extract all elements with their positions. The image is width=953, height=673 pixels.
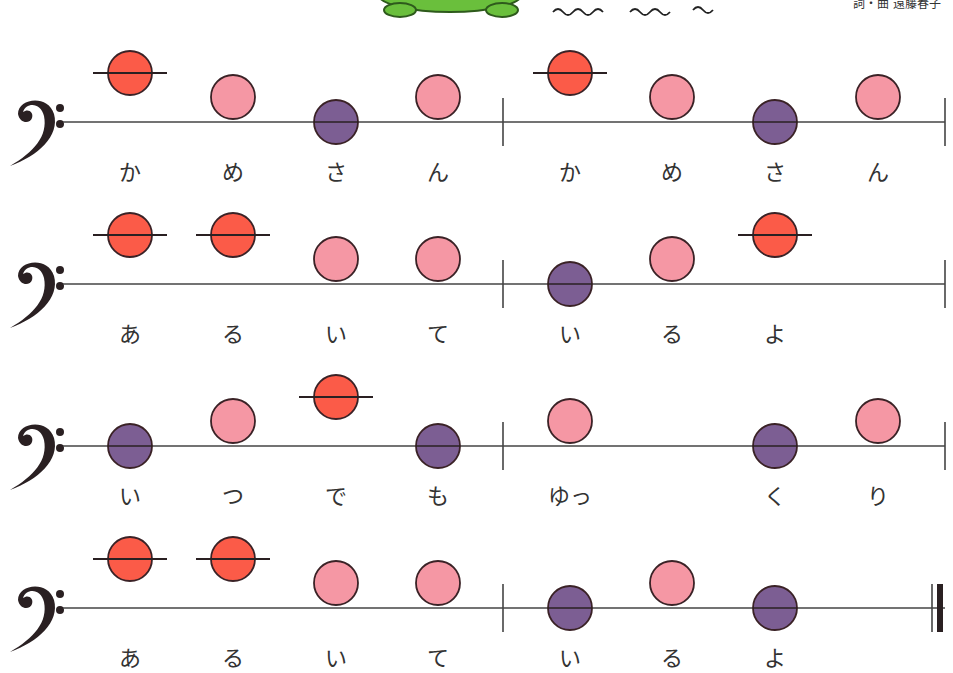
bass-clef-icon: [10, 586, 64, 652]
lyric-syllable: ゆっ: [548, 486, 592, 508]
note-mid: [416, 561, 460, 605]
note-mid: [211, 399, 255, 443]
composer-credit: 詞・曲 遠藤春子: [853, 0, 941, 11]
lyric-syllable: く: [764, 486, 786, 508]
bass-clef-icon: [10, 262, 64, 328]
note-low: [753, 100, 797, 144]
note-mid: [416, 75, 460, 119]
score-canvas: [0, 0, 953, 673]
note-mid: [416, 237, 460, 281]
note-low: [753, 586, 797, 630]
note-mid: [650, 237, 694, 281]
lyric-syllable: あ: [119, 648, 141, 670]
note-high: [93, 537, 167, 581]
note-mid: [548, 399, 592, 443]
lyric-syllable: り: [867, 486, 889, 508]
note-low: [548, 262, 592, 306]
note-high: [196, 537, 270, 581]
note-high: [93, 213, 167, 257]
note-low: [416, 424, 460, 468]
lyric-syllable: さ: [325, 162, 347, 184]
lyric-syllable: か: [559, 162, 581, 184]
lyric-syllable: よ: [764, 648, 786, 670]
lyric-syllable: か: [119, 162, 141, 184]
wave-decoration: [553, 7, 713, 15]
note-mid: [650, 561, 694, 605]
lyric-syllable: つ: [222, 486, 244, 508]
lyric-syllable: め: [661, 162, 683, 184]
lyric-syllable: ん: [867, 162, 889, 184]
staff-row: [10, 213, 945, 328]
note-low: [753, 424, 797, 468]
note-mid: [856, 75, 900, 119]
note-mid: [650, 75, 694, 119]
lyric-syllable: て: [427, 648, 449, 670]
lyric-syllable: る: [661, 324, 683, 346]
lyric-syllable: い: [325, 324, 347, 346]
note-mid: [211, 75, 255, 119]
lyric-syllable: め: [222, 162, 244, 184]
lyric-syllable: あ: [119, 324, 141, 346]
lyric-syllable: い: [325, 648, 347, 670]
lyric-syllable: ん: [427, 162, 449, 184]
turtle-illustration: [378, 0, 522, 17]
lyric-syllable: る: [222, 324, 244, 346]
note-low: [314, 100, 358, 144]
note-mid: [314, 561, 358, 605]
note-mid: [314, 237, 358, 281]
lyric-syllable: よ: [764, 324, 786, 346]
lyric-syllable: さ: [764, 162, 786, 184]
sheet-music-page: 詞・曲 遠藤春子 かめさんかめさんあるいているよいつでもゆっくりあるいているよ: [0, 0, 953, 673]
note-high: [738, 213, 812, 257]
lyric-syllable: も: [427, 486, 449, 508]
bass-clef-icon: [10, 100, 64, 166]
final-barline-thick: [937, 584, 943, 632]
lyric-syllable: る: [661, 648, 683, 670]
staff-row: [10, 537, 945, 652]
note-high: [196, 213, 270, 257]
lyric-syllable: で: [325, 486, 347, 508]
note-high: [533, 51, 607, 95]
note-high: [299, 375, 373, 419]
note-high: [93, 51, 167, 95]
lyric-syllable: い: [119, 486, 141, 508]
lyric-syllable: い: [559, 648, 581, 670]
lyric-syllable: る: [222, 648, 244, 670]
lyric-syllable: て: [427, 324, 449, 346]
note-low: [548, 586, 592, 630]
note-mid: [856, 399, 900, 443]
lyric-syllable: い: [559, 324, 581, 346]
bass-clef-icon: [10, 424, 64, 490]
note-low: [108, 424, 152, 468]
staff-row: [10, 51, 945, 166]
staff-row: [10, 375, 945, 490]
